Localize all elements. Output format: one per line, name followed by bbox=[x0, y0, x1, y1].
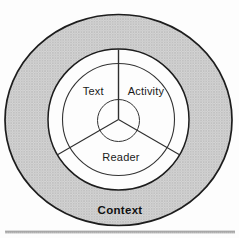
label-text-sector: Text bbox=[83, 85, 104, 97]
label-activity-sector: Activity bbox=[128, 85, 165, 97]
label-context-ring: Context bbox=[98, 204, 143, 216]
label-reader-sector: Reader bbox=[102, 151, 139, 163]
bottom-rule-stipple bbox=[5, 232, 235, 234]
bottom-rule-dark-line bbox=[5, 231, 235, 232]
ring-diagram: Text Activity Reader Context bbox=[0, 0, 239, 238]
page: Text Activity Reader Context bbox=[0, 0, 239, 238]
